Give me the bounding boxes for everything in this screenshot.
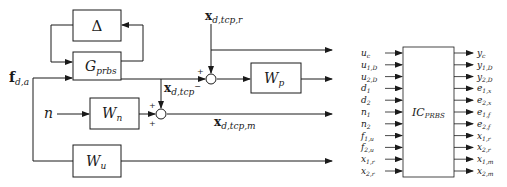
summer-bottom	[156, 109, 166, 119]
delta-label: Δ	[92, 17, 103, 35]
ic-input-label: x1,r	[361, 154, 376, 165]
block-diagram: Δ Gprbs Wp Wn Wu fd,a n xd,tcp,r xd,tcp−…	[0, 0, 507, 187]
ic-output-label: x2,m	[477, 166, 494, 177]
ic-input-label: f2,u	[360, 142, 374, 153]
ic-output-label: e1,x	[477, 83, 492, 94]
feedback-to-delta-line	[121, 25, 143, 61]
ic-input-label: n1	[361, 107, 371, 118]
summer-bottom-plus-top: +	[149, 101, 156, 110]
n-label: n	[44, 105, 53, 121]
ic-output-label: y1,D	[476, 60, 493, 71]
ic-input-label: u1,D	[361, 60, 378, 71]
ic-input-label: u2,D	[361, 72, 378, 83]
ic-input-label: x2,r	[361, 166, 376, 177]
ic-input-label: n2	[361, 119, 371, 130]
ic-input-label: d2	[361, 95, 371, 106]
ic-input-label: f1,u	[360, 131, 374, 142]
ic-output-label: e2,f	[477, 119, 492, 131]
x-dtcp-m-label: xd,tcp,m	[214, 115, 256, 131]
ic-input-label: d1	[361, 83, 371, 94]
summer-top-plus: +	[197, 67, 204, 76]
summer-top	[206, 74, 216, 84]
ic-output-label: e1,f	[477, 107, 492, 119]
summer-bottom-plus-bottom: +	[149, 119, 156, 128]
feedback-from-delta-line	[51, 25, 73, 62]
ic-output-label: yc	[476, 48, 486, 59]
ic-output-label: x2,r	[477, 142, 492, 153]
ic-input-label: uc	[361, 48, 371, 59]
ic-output-label: y2,D	[476, 72, 493, 83]
ic-output-label: x1,m	[477, 154, 494, 165]
ic-output-label: e2,x	[477, 95, 492, 106]
x-dtcp-label: xd,tcp−	[164, 81, 201, 97]
ic-output-label: x1,r	[477, 131, 492, 142]
f-da-label: fd,a	[9, 69, 29, 87]
x-dtcp-r-label: xd,tcp,r	[205, 9, 243, 25]
